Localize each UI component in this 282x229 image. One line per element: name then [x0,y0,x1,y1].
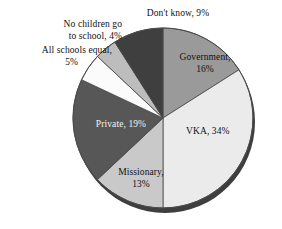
slice-label-all-schools-equal-line2: 5% [2,57,78,69]
slice-label-all-schools-equal-line1: All schools equal, [2,45,112,57]
slice-label-government-line2: 16% [168,64,242,76]
slice-label-missionary-line1: Missionary, [104,167,178,179]
slice-label-no-children-line2: to school, 4% [20,31,122,43]
slice-label-dont-know: Don't know, 9% [123,8,233,20]
pie-chart: Don't know, 9% No children go to school,… [0,0,282,229]
slice-label-private: Private, 19% [84,119,158,131]
slice-label-vka: VKA, 34% [186,126,266,138]
slice-label-no-children-line1: No children go [20,19,122,31]
slice-label-government-line1: Government, [168,52,242,64]
slice-label-missionary-line2: 13% [104,179,178,191]
